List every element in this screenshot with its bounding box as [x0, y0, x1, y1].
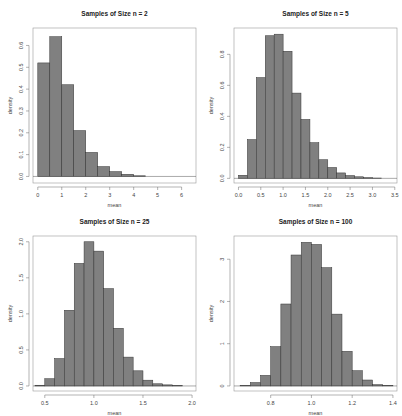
bars — [238, 34, 381, 178]
chart-title: Samples of Size n = 5 — [282, 10, 349, 18]
x-tick-label: 3.5 — [391, 192, 399, 198]
y-tick-label: 0.0 — [18, 173, 24, 181]
y-axis-label: density — [7, 97, 13, 115]
x-axis: 0123456 — [36, 187, 183, 198]
bars — [35, 242, 182, 386]
histogram-bar — [281, 304, 291, 386]
x-axis: 0.81.01.21.4 — [267, 395, 397, 406]
x-tick-label: 1.0 — [279, 192, 287, 198]
histogram-bar — [265, 36, 274, 179]
x-tick-label: 0.0 — [235, 192, 243, 198]
histogram-bar — [260, 375, 270, 386]
x-axis-label: mean — [108, 410, 122, 416]
histogram-n5: Samples of Size n = 50.00.51.01.52.02.53… — [201, 0, 402, 208]
histogram-n25: Samples of Size n = 250.51.01.52.0mean0.… — [0, 208, 201, 416]
histogram-bar — [274, 34, 283, 178]
y-tick-label: 0.1 — [18, 151, 24, 159]
histogram-bar — [74, 131, 86, 177]
y-tick-label: 1.0 — [18, 310, 24, 318]
histogram-bar — [291, 255, 301, 386]
x-tick-label: 1.0 — [308, 400, 316, 406]
y-tick-label: 0.8 — [219, 51, 225, 59]
y-tick-label: 1 — [219, 342, 225, 345]
histogram-bar — [362, 380, 372, 386]
y-tick-label: 0.5 — [18, 63, 24, 71]
histogram-bar — [45, 379, 55, 386]
x-tick-label: 0.5 — [257, 192, 265, 198]
histogram-n100: Samples of Size n = 1000.81.01.21.4mean0… — [201, 208, 402, 416]
y-axis: 0.00.10.20.30.40.50.6 — [18, 42, 29, 181]
chart-title: Samples of Size n = 100 — [279, 218, 353, 226]
histogram-bar — [250, 383, 260, 386]
histogram-bar — [283, 51, 292, 178]
y-axis: 0.00.20.40.60.8 — [219, 51, 230, 183]
histogram-bar — [271, 347, 281, 386]
histogram-bar — [122, 174, 134, 176]
histogram-bar — [84, 242, 94, 386]
x-tick-label: 4 — [132, 192, 135, 198]
histogram-bar — [38, 63, 50, 177]
histogram-bar — [114, 328, 124, 386]
histogram-bar — [55, 359, 65, 386]
histogram-bar — [74, 263, 84, 386]
x-tick-label: 0 — [36, 192, 39, 198]
y-tick-label: 0.2 — [18, 129, 24, 137]
y-tick-label: 0.0 — [219, 175, 225, 183]
x-tick-label: 1.5 — [302, 192, 310, 198]
histogram-bar — [301, 242, 311, 386]
histogram-bar — [292, 93, 301, 178]
histogram-bar — [247, 140, 256, 179]
y-axis-label: density — [7, 305, 13, 323]
x-tick-label: 2.0 — [188, 400, 196, 406]
chart-title: Samples of Size n = 25 — [80, 218, 150, 226]
x-tick-label: 1.2 — [348, 400, 356, 406]
histogram-bar — [322, 268, 332, 386]
histogram-bar — [352, 371, 362, 386]
histogram-bar — [346, 176, 355, 179]
y-tick-label: 0 — [219, 384, 225, 387]
histogram-bar — [98, 167, 110, 177]
y-tick-label: 0.4 — [18, 85, 24, 93]
histogram-bar — [301, 119, 310, 178]
x-tick-label: 0.8 — [267, 400, 275, 406]
histogram-bar — [342, 351, 352, 386]
x-tick-label: 5 — [156, 192, 159, 198]
histogram-bar — [104, 289, 114, 386]
y-tick-label: 0.6 — [219, 82, 225, 90]
histogram-bar — [143, 380, 153, 386]
y-axis-label: density — [208, 305, 214, 323]
histogram-bar — [62, 85, 74, 177]
histogram-bar — [133, 371, 143, 386]
y-tick-label: 3 — [219, 258, 225, 261]
histogram-bar — [332, 314, 342, 386]
y-tick-label: 0.5 — [18, 346, 24, 354]
histogram-n25-svg: Samples of Size n = 250.51.01.52.0mean0.… — [0, 208, 201, 416]
histogram-bar — [153, 384, 163, 386]
y-axis: 0.00.51.01.52.0 — [18, 238, 29, 390]
x-tick-label: 6 — [180, 192, 183, 198]
x-tick-label: 2 — [84, 192, 87, 198]
histogram-bar — [50, 37, 62, 177]
x-tick-label: 2.5 — [346, 192, 354, 198]
x-tick-label: 1.4 — [389, 400, 397, 406]
y-axis-label: density — [208, 97, 214, 115]
histogram-n5-svg: Samples of Size n = 50.00.51.01.52.02.53… — [201, 0, 402, 208]
histogram-bar — [110, 172, 122, 177]
y-tick-label: 0.3 — [18, 107, 24, 115]
y-tick-label: 1.5 — [18, 274, 24, 282]
histogram-bar — [86, 152, 98, 176]
y-tick-label: 2 — [219, 300, 225, 303]
y-tick-label: 0.6 — [18, 42, 24, 50]
histogram-n100-svg: Samples of Size n = 1000.81.01.21.4mean0… — [201, 208, 402, 416]
histogram-bar — [238, 175, 247, 178]
chart-title: Samples of Size n = 2 — [81, 10, 148, 18]
y-axis: 0123 — [219, 258, 230, 388]
histogram-bar — [311, 244, 321, 385]
histogram-n2-svg: Samples of Size n = 20123456mean0.00.10.… — [0, 0, 201, 208]
bars — [240, 242, 393, 386]
histogram-bar — [319, 160, 328, 179]
y-tick-label: 0.0 — [18, 382, 24, 390]
histogram-n2: Samples of Size n = 20123456mean0.00.10.… — [0, 0, 201, 208]
x-tick-label: 1.5 — [139, 400, 147, 406]
x-tick-label: 3.0 — [369, 192, 377, 198]
